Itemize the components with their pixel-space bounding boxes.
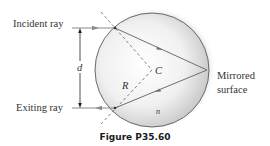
distance-label: d xyxy=(77,62,83,73)
mirrored-surface-label-line2: surface xyxy=(217,84,248,95)
radius-label: R xyxy=(121,80,129,91)
distance-arrow-head-top xyxy=(78,28,82,33)
figure-caption: Figure P35.60 xyxy=(100,132,171,142)
incident-ray-arrow xyxy=(92,26,99,30)
mirrored-surface-label-line1: Mirrored xyxy=(217,70,256,81)
distance-arrow-head-bottom xyxy=(78,103,82,108)
center-label: C xyxy=(155,65,163,76)
diagram-canvas: d Incident ray Exiting ray C R n Mirrore… xyxy=(0,0,270,146)
exit-point xyxy=(114,107,117,110)
entry-point xyxy=(114,27,117,30)
index-label: n xyxy=(156,107,160,116)
exiting-ray-label: Exiting ray xyxy=(16,102,64,113)
exiting-ray-arrow xyxy=(95,106,102,110)
incident-ray-label: Incident ray xyxy=(13,18,64,29)
